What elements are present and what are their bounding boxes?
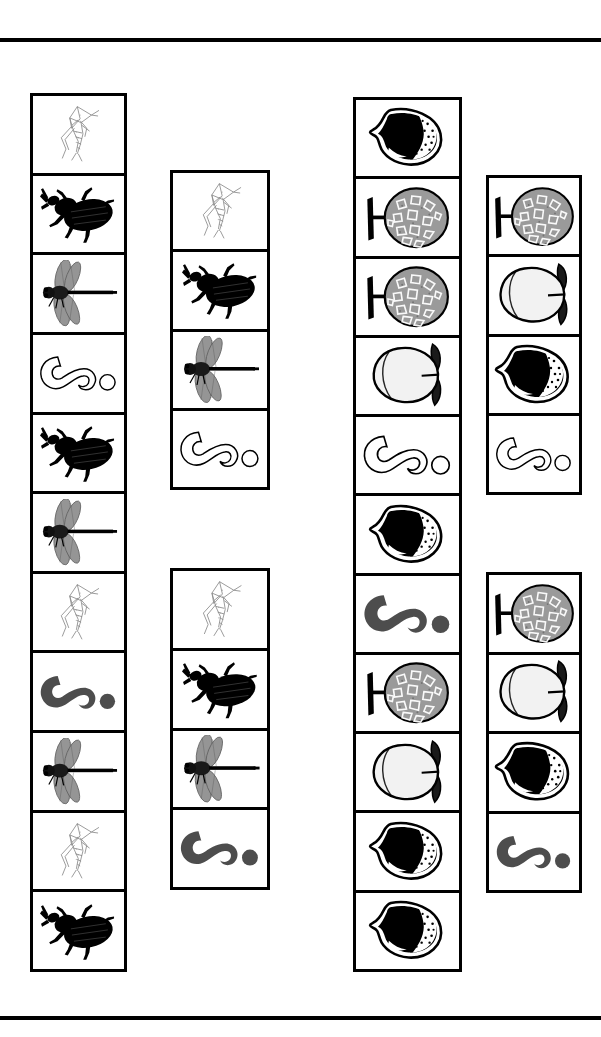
pictogram-cell <box>33 335 124 415</box>
pictogram-cell <box>356 338 459 417</box>
pictogram-cell <box>356 734 459 813</box>
fruit-pale-icon <box>365 739 450 807</box>
dragonfly-icon <box>36 260 121 327</box>
dragonfly-icon <box>36 499 121 566</box>
figure-canvas <box>0 0 601 1037</box>
pictogram-cell <box>356 655 459 734</box>
grasshopper-icon <box>191 177 250 245</box>
pictogram-cell <box>356 496 459 575</box>
pictogram-cell <box>173 731 267 811</box>
pictogram-cell <box>356 813 459 892</box>
pictogram-cell <box>33 96 124 176</box>
pictogram-cell <box>489 178 579 257</box>
fruit-pale-icon <box>365 342 450 410</box>
dragonfly-icon <box>177 735 264 804</box>
fruit-textured-icon <box>364 659 451 727</box>
pictogram-cell <box>33 255 124 335</box>
beetle-icon <box>182 655 259 724</box>
larva-outline-icon <box>36 348 121 399</box>
fig-dark-icon <box>367 104 449 172</box>
pictogram-cell <box>173 173 267 252</box>
beetle-icon <box>40 419 116 487</box>
top-horizontal-rule <box>0 38 601 42</box>
fig-dark-icon <box>493 341 575 409</box>
larva-outline-icon <box>176 423 264 475</box>
pictogram-cell <box>356 100 459 179</box>
fruit-textured-icon <box>492 184 576 249</box>
larva-filled-icon <box>36 667 121 718</box>
pictogram-cell <box>489 257 579 336</box>
larva-filled-icon <box>359 585 456 643</box>
pictogram-cell <box>173 411 267 487</box>
pictogram-cell <box>33 653 124 733</box>
pictogram-cell <box>33 813 124 893</box>
fruit-pale-icon <box>492 659 576 726</box>
fruit-strip-lower-right <box>486 572 582 893</box>
fruit-textured-icon <box>364 263 451 331</box>
pictogram-cell <box>489 337 579 416</box>
fig-dark-icon <box>367 897 449 965</box>
dragonfly-icon <box>177 336 263 404</box>
pictogram-cell <box>489 655 579 735</box>
pictogram-cell <box>356 417 459 496</box>
pictogram-cell <box>173 571 267 651</box>
fig-dark-icon <box>493 738 575 806</box>
fruit-pale-icon <box>492 262 576 329</box>
pictogram-cell <box>489 814 579 891</box>
fruit-strip-upper-right <box>486 175 582 495</box>
grasshopper-icon <box>49 578 108 646</box>
fig-dark-icon <box>367 818 449 886</box>
larva-filled-icon <box>176 822 264 874</box>
fig-dark-icon <box>367 501 449 569</box>
pictogram-cell <box>356 259 459 338</box>
beetle-icon <box>40 897 116 965</box>
pictogram-cell <box>356 179 459 258</box>
grasshopper-icon <box>49 817 108 885</box>
pictogram-cell <box>356 576 459 655</box>
grasshopper-icon <box>191 575 250 644</box>
pictogram-cell <box>173 332 267 411</box>
pictogram-cell <box>33 574 124 654</box>
pictogram-cell <box>33 415 124 495</box>
pictogram-cell <box>489 734 579 814</box>
larva-outline-icon <box>492 429 576 479</box>
larva-filled-icon <box>492 827 576 877</box>
pictogram-cell <box>356 893 459 969</box>
grasshopper-icon <box>49 100 108 168</box>
pictogram-cell <box>489 575 579 655</box>
pictogram-cell <box>33 494 124 574</box>
pictogram-cell <box>33 176 124 256</box>
pictogram-cell <box>173 651 267 731</box>
beetle-icon <box>40 180 116 248</box>
bottom-horizontal-rule <box>0 1016 601 1020</box>
pictogram-cell <box>173 252 267 331</box>
pictogram-cell <box>33 892 124 969</box>
fruit-textured-icon <box>364 184 451 252</box>
fruit-textured-icon <box>492 581 576 646</box>
larva-outline-icon <box>359 426 456 484</box>
fruit-strip-long-left <box>353 97 462 972</box>
insect-strip-upper-right <box>170 170 270 490</box>
insect-strip-long-left <box>30 93 127 972</box>
dragonfly-icon <box>36 738 121 805</box>
pictogram-cell <box>33 733 124 813</box>
beetle-icon <box>182 256 258 324</box>
insect-strip-lower-right <box>170 568 270 890</box>
pictogram-cell <box>489 416 579 492</box>
pictogram-cell <box>173 810 267 887</box>
